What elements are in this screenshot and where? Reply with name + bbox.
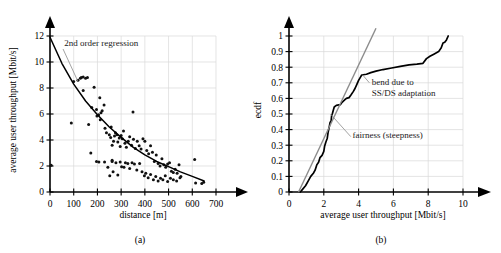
- x-tick-label: 8: [426, 199, 431, 209]
- scatter-point: [143, 174, 146, 177]
- y-tick-label: 0.5: [271, 109, 283, 119]
- x-tick-label: 200: [90, 199, 105, 209]
- scatter-point: [143, 140, 146, 143]
- scatter-point: [151, 151, 154, 154]
- scatter-point: [50, 164, 53, 167]
- y-tick-label: 1: [278, 31, 283, 41]
- scatter-point: [105, 131, 108, 134]
- chart-a-y-axis-label: average user throughput [Mbit/s]: [8, 47, 18, 172]
- scatter-point: [108, 133, 111, 136]
- x-tick-label: 300: [114, 199, 129, 209]
- chart-b-annotations: bend due toSS/DS adaptationfairness (ste…: [330, 75, 435, 140]
- scatter-point: [86, 76, 89, 79]
- scatter-point: [119, 145, 122, 148]
- scatter-point: [194, 181, 197, 184]
- scatter-point: [175, 179, 178, 182]
- scatter-point: [125, 146, 128, 149]
- scatter-point: [178, 163, 181, 166]
- chart-a-x-axis-label: distance [m]: [119, 210, 166, 220]
- scatter-point: [136, 140, 139, 143]
- scatter-point: [138, 162, 141, 165]
- subfigure-b-caption: (b): [375, 235, 386, 246]
- scatter-point: [168, 161, 171, 164]
- scatter-point: [119, 161, 122, 164]
- y-tick-label: 10: [35, 57, 45, 67]
- chart-b-y-axis-label: ecdf: [253, 101, 263, 118]
- x-tick-label: 100: [67, 199, 82, 209]
- scatter-point: [89, 152, 92, 155]
- subfigure-b: 024681000.10.20.30.40.50.60.70.80.91 ben…: [250, 0, 501, 253]
- chart-annotation: SS/DS adaptation: [372, 88, 436, 98]
- scatter-point: [164, 174, 167, 177]
- chart-annotation: fairness (steepness): [353, 130, 423, 140]
- scatter-point: [155, 153, 158, 156]
- annotation-leader-regression: [63, 49, 78, 82]
- chart-b-tickmarks: [286, 36, 464, 196]
- scatter-point: [154, 175, 157, 178]
- scatter-point: [149, 144, 152, 147]
- x-tick-label: 10: [458, 199, 468, 209]
- subfigure-a-caption: (a): [135, 235, 146, 246]
- scatter-point: [111, 159, 114, 162]
- scatter-chart-distance-throughput: 0100200300400500600700024681012 2nd orde…: [0, 0, 250, 253]
- scatter-point: [108, 174, 111, 177]
- scatter-point: [104, 127, 107, 130]
- scatter-point: [140, 148, 143, 151]
- scatter-point: [166, 180, 169, 183]
- x-tick-label: 6: [391, 199, 396, 209]
- scatter-point: [147, 176, 150, 179]
- scatter-point: [193, 158, 196, 161]
- scatter-point: [70, 122, 73, 125]
- scatter-point: [149, 173, 152, 176]
- chart-a-gridlines: [50, 36, 216, 192]
- y-tick-label: 12: [35, 31, 45, 41]
- x-tick-label: 0: [287, 199, 292, 209]
- y-tick-label: 2: [39, 161, 44, 171]
- series-fairness-steepness-: [299, 28, 376, 192]
- chart-a-annotations: 2nd order regression: [63, 38, 139, 81]
- y-tick-label: 0.9: [271, 47, 283, 57]
- scatter-point: [135, 168, 138, 171]
- chart-a-tickmarks: [47, 36, 217, 196]
- scatter-point: [112, 140, 115, 143]
- x-tick-label: 400: [138, 199, 153, 209]
- x-tick-label: 600: [185, 199, 200, 209]
- scatter-point: [169, 177, 172, 180]
- scatter-point: [109, 136, 112, 139]
- scatter-point: [132, 111, 135, 114]
- scatter-point: [116, 140, 119, 143]
- chart-annotation: bend due to: [372, 77, 414, 87]
- subfigure-a: 0100200300400500600700024681012 2nd orde…: [0, 0, 250, 253]
- scatter-point: [112, 170, 115, 173]
- y-tick-label: 0.3: [271, 141, 283, 151]
- y-tick-label: 0.2: [271, 156, 283, 166]
- y-tick-label: 0: [278, 187, 283, 197]
- y-tick-label: 4: [39, 135, 44, 145]
- x-tick-label: 2: [321, 199, 326, 209]
- y-tick-label: 0.8: [271, 63, 283, 73]
- scatter-point: [144, 172, 147, 175]
- scatter-point: [111, 144, 114, 147]
- annotation-leader-fairness: [330, 114, 350, 137]
- x-tick-label: 700: [209, 199, 224, 209]
- scatter-point: [132, 138, 135, 141]
- chart-annotation: 2nd order regression: [64, 38, 138, 48]
- scatter-point: [97, 161, 100, 164]
- series-2nd-order-regression: [50, 37, 204, 181]
- y-tick-label: 0.7: [271, 78, 283, 88]
- scatter-point: [103, 161, 106, 164]
- scatter-point: [126, 162, 129, 165]
- scatter-point: [98, 96, 101, 99]
- scatter-point: [159, 165, 162, 168]
- y-tick-label: 6: [39, 109, 44, 119]
- scatter-point: [87, 123, 90, 126]
- scatter-point: [178, 176, 181, 179]
- scatter-point: [103, 103, 106, 106]
- chart-b-tick-labels: 024681000.10.20.30.40.50.60.70.80.91: [271, 31, 468, 209]
- scatter-point: [93, 86, 96, 89]
- scatter-point: [128, 135, 131, 138]
- scatter-point: [141, 170, 144, 173]
- scatter-point: [101, 109, 104, 112]
- annotation-leader-bend: [362, 75, 369, 83]
- x-tick-label: 4: [356, 199, 361, 209]
